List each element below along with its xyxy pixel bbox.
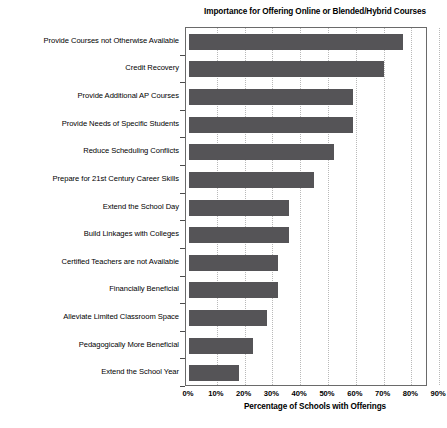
- y-axis-tick: [180, 165, 185, 166]
- bar-row: [189, 310, 267, 326]
- bar: [189, 117, 353, 133]
- y-axis-tick: [180, 331, 185, 332]
- bar-row: [189, 117, 353, 133]
- y-axis-tick: [180, 276, 185, 277]
- y-axis-tick: [180, 82, 185, 83]
- y-axis-tick: [180, 110, 185, 111]
- y-axis-label: Extend the School Year: [101, 364, 179, 380]
- y-axis-label: Pedagogically More Beneficial: [79, 337, 179, 353]
- bar: [189, 200, 289, 216]
- bar: [189, 310, 267, 326]
- x-axis-tick-label: 0%: [183, 389, 194, 398]
- bar: [189, 282, 278, 298]
- y-axis-tick: [180, 303, 185, 304]
- bar-row: [189, 282, 278, 298]
- plot-area: [185, 27, 427, 386]
- bar-row: [189, 365, 239, 381]
- x-axis-tick-label: 30%: [264, 389, 279, 398]
- y-axis-tick: [180, 193, 185, 194]
- x-axis-title: Percentage of Schools with Offerings: [186, 402, 444, 411]
- bar: [189, 227, 289, 243]
- x-axis-tick-label: 10%: [208, 389, 223, 398]
- bars-container: [186, 28, 426, 385]
- y-axis-label: Financially Beneficial: [109, 281, 179, 297]
- y-axis-label: Certified Teachers are not Available: [62, 254, 179, 270]
- bar: [189, 338, 253, 354]
- y-axis-label: Build Linkages with Colleges: [84, 226, 179, 242]
- bar: [189, 255, 278, 271]
- y-axis-tick: [180, 55, 185, 56]
- bar: [189, 89, 353, 105]
- bar-row: [189, 89, 353, 105]
- bar: [189, 34, 403, 50]
- y-axis-label: Alleviate Limited Classroom Space: [63, 309, 179, 325]
- y-axis-label: Reduce Scheduling Conflicts: [83, 143, 179, 159]
- bar-row: [189, 338, 253, 354]
- x-axis-tick-label: 70%: [375, 389, 390, 398]
- bar-row: [189, 255, 278, 271]
- x-axis-tick-label: 80%: [403, 389, 418, 398]
- bar-row: [189, 61, 384, 77]
- x-axis-tick-labels: 0%10%20%30%40%50%60%70%80%90%: [0, 389, 447, 401]
- y-axis-tick: [180, 358, 185, 359]
- y-axis-tick: [180, 386, 185, 387]
- y-axis-label: Prepare for 21st Century Career Skills: [53, 171, 179, 187]
- bar: [189, 144, 334, 160]
- bar-row: [189, 200, 289, 216]
- y-axis-tick: [180, 248, 185, 249]
- y-axis-label: Provide Additional AP Courses: [78, 88, 179, 104]
- bar: [189, 172, 314, 188]
- y-axis-tick: [180, 137, 185, 138]
- y-axis-label: Extend the School Day: [103, 199, 179, 215]
- y-axis-label: Credit Recovery: [125, 60, 179, 76]
- y-axis-tick: [180, 220, 185, 221]
- x-axis-tick-label: 50%: [319, 389, 334, 398]
- bar-row: [189, 144, 334, 160]
- bar: [189, 61, 384, 77]
- y-axis-label: Provide Courses not Otherwise Available: [43, 33, 179, 49]
- bar-row: [189, 172, 314, 188]
- x-axis-tick-label: 20%: [236, 389, 251, 398]
- gridline: [439, 28, 440, 385]
- y-axis-label: Provide Needs of Specific Students: [62, 116, 179, 132]
- x-axis-tick-label: 60%: [347, 389, 362, 398]
- x-axis-tick-label: 90%: [431, 389, 446, 398]
- y-axis-labels: Provide Courses not Otherwise AvailableC…: [0, 27, 182, 386]
- bar-row: [189, 34, 403, 50]
- chart-title: Importance for Offering Online or Blende…: [186, 6, 444, 17]
- bar: [189, 365, 239, 381]
- bar-chart: Importance for Offering Online or Blende…: [0, 0, 447, 428]
- bar-row: [189, 227, 289, 243]
- x-axis-tick-label: 40%: [292, 389, 307, 398]
